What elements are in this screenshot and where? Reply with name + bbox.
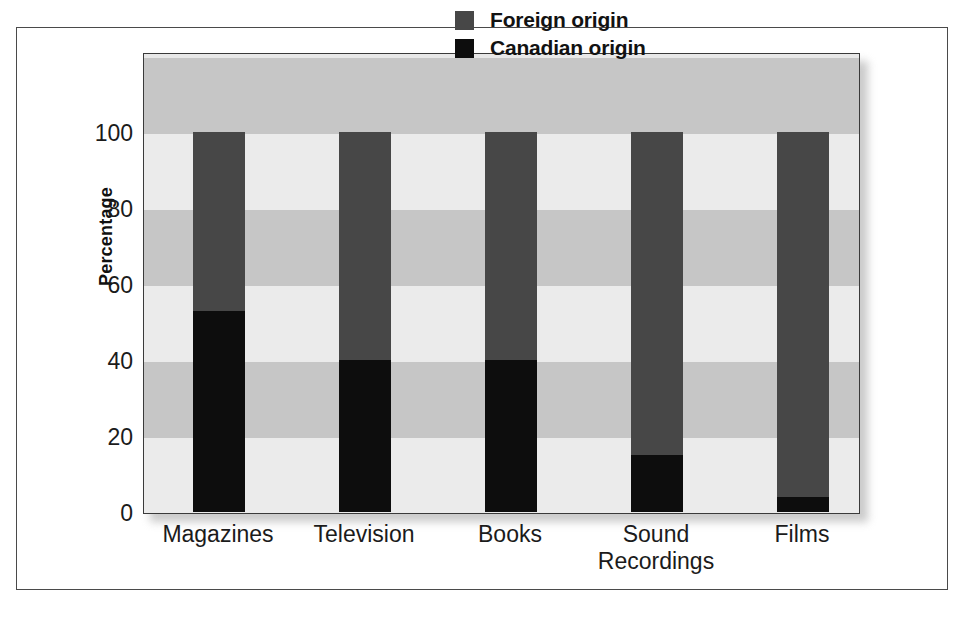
legend-label: Canadian origin <box>490 36 646 60</box>
legend: Foreign originCanadian origin <box>455 8 646 60</box>
y-tick-label: 0 <box>37 500 133 527</box>
bar-segment-foreign[interactable] <box>485 132 537 360</box>
plot-area <box>143 53 860 514</box>
bar-sound-recordings[interactable] <box>631 132 683 512</box>
legend-swatch <box>455 11 474 30</box>
bar-television[interactable] <box>339 132 391 512</box>
legend-label: Foreign origin <box>490 8 628 32</box>
y-tick-label: 20 <box>37 424 133 451</box>
bar-segment-foreign[interactable] <box>777 132 829 497</box>
y-tick-label: 40 <box>37 348 133 375</box>
bar-segment-foreign[interactable] <box>631 132 683 455</box>
x-tick-label: Films <box>712 521 892 548</box>
y-tick-label: 80 <box>37 196 133 223</box>
bar-segment-foreign[interactable] <box>193 132 245 311</box>
bar-films[interactable] <box>777 132 829 512</box>
legend-swatch <box>455 39 474 58</box>
bar-segment-canadian[interactable] <box>339 360 391 512</box>
y-tick-label: 60 <box>37 272 133 299</box>
y-axis-ticks: 020406080100 <box>33 0 133 617</box>
bar-segment-canadian[interactable] <box>631 455 683 512</box>
bar-segment-canadian[interactable] <box>193 311 245 512</box>
figure-container: Percentage 020406080100 Foreign originCa… <box>0 0 968 617</box>
legend-item[interactable]: Canadian origin <box>455 36 646 60</box>
bar-segment-foreign[interactable] <box>339 132 391 360</box>
background-band <box>144 58 859 134</box>
bar-segment-canadian[interactable] <box>777 497 829 512</box>
bar-books[interactable] <box>485 132 537 512</box>
bar-segment-canadian[interactable] <box>485 360 537 512</box>
y-tick-label: 100 <box>37 120 133 147</box>
bar-magazines[interactable] <box>193 132 245 512</box>
legend-item[interactable]: Foreign origin <box>455 8 646 32</box>
